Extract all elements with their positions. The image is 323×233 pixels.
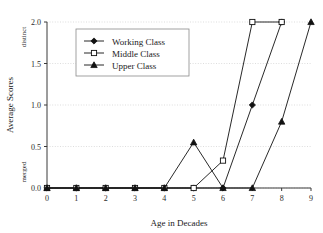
x-tick-labels: 0123456789	[45, 194, 313, 203]
legend-label: Working Class	[112, 37, 166, 47]
x-tick-label: 8	[280, 194, 284, 203]
x-tick-label: 0	[45, 194, 49, 203]
legend-label: Upper Class	[112, 61, 157, 71]
data-point-marker	[278, 118, 284, 124]
y-axis-title: Average Scores	[5, 76, 15, 133]
y-tick-label: 1.0	[31, 101, 41, 110]
legend-entries: Working ClassMiddle ClassUpper Class	[84, 37, 166, 71]
chart-legend: Working ClassMiddle ClassUpper Class	[76, 29, 189, 76]
y-endpoint-label-distinct: distinct	[20, 27, 28, 48]
x-tick-label: 4	[162, 194, 166, 203]
chart-figure: 0.00.51.01.52.0 0123456789 Age in Decade…	[0, 0, 323, 233]
data-point-marker	[279, 19, 284, 24]
x-tick-label: 6	[221, 194, 225, 203]
y-tick-labels: 0.00.51.01.52.0	[31, 18, 41, 193]
data-point-marker	[190, 139, 196, 145]
y-tick-label: 2.0	[31, 18, 41, 27]
y-tick-label: 0.0	[31, 184, 41, 193]
legend-label: Middle Class	[112, 49, 160, 59]
x-tick-label: 5	[192, 194, 196, 203]
legend-sample-marker	[91, 50, 96, 55]
x-axis-title: Age in Decades	[151, 218, 208, 228]
x-tick-label: 9	[309, 194, 313, 203]
line-chart: 0.00.51.01.52.0 0123456789 Age in Decade…	[0, 0, 323, 233]
data-point-marker	[220, 158, 225, 163]
x-tick-label: 3	[133, 194, 137, 203]
data-point-marker	[250, 19, 255, 24]
data-point-marker	[308, 19, 314, 25]
data-point-marker	[249, 102, 255, 108]
y-tick-label: 0.5	[31, 143, 41, 152]
x-tick-label: 7	[250, 194, 254, 203]
data-point-marker	[191, 185, 196, 190]
x-tick-label: 2	[104, 194, 108, 203]
x-tick-label: 1	[74, 194, 78, 203]
y-endpoint-label-merged: merged	[20, 161, 28, 182]
y-tick-label: 1.5	[31, 60, 41, 69]
